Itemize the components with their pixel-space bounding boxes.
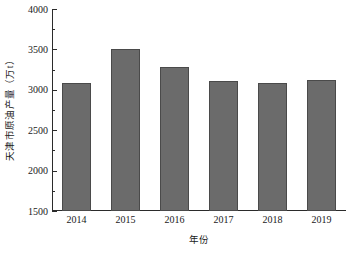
x-tick-label: 2015 (116, 215, 136, 225)
bar-2019 (307, 80, 336, 211)
y-tick-minor (52, 70, 55, 71)
y-tick-label: 3000 (28, 85, 48, 95)
y-tick-major (52, 49, 57, 50)
bar-chart-figure: 天津市原油产量（万t） 150020002500300035004000 201… (0, 0, 354, 259)
y-tick-major (52, 171, 57, 172)
bar-2016 (160, 67, 189, 211)
x-tick-label: 2019 (312, 215, 332, 225)
y-tick-major (52, 130, 57, 131)
y-tick-label: 2500 (28, 126, 48, 136)
x-tick-label: 2017 (214, 215, 234, 225)
y-tick-label: 3500 (28, 45, 48, 55)
y-tick-minor (52, 191, 55, 192)
bar-2017 (209, 81, 238, 211)
y-tick-minor (52, 150, 55, 151)
y-tick-major (52, 9, 57, 10)
x-axis-title: 年份 (52, 232, 346, 246)
y-tick-major (52, 90, 57, 91)
y-tick-label: 1500 (28, 207, 48, 217)
y-axis-title: 天津市原油产量（万t） (0, 0, 18, 215)
bar-2014 (62, 83, 91, 211)
bar-2018 (258, 83, 287, 211)
y-tick-label: 2000 (28, 166, 48, 176)
y-tick-label: 4000 (28, 5, 48, 15)
y-tick-minor (52, 29, 55, 30)
plot-area: 150020002500300035004000 201420152016201… (52, 9, 346, 211)
y-axis-title-text: 天津市原油产量（万t） (2, 55, 16, 161)
x-tick-label: 2016 (165, 215, 185, 225)
x-tick-label: 2018 (263, 215, 283, 225)
bar-2015 (111, 49, 140, 211)
x-axis-spine (52, 210, 346, 211)
x-tick-label: 2014 (67, 215, 87, 225)
y-tick-major (52, 211, 57, 212)
y-tick-minor (52, 110, 55, 111)
